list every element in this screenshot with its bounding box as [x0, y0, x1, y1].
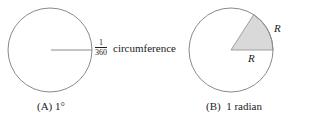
sector-1-radian	[231, 15, 273, 50]
circumference-label: circumference	[113, 42, 176, 54]
radius-label-bottom: R	[248, 52, 255, 64]
fraction-1-360: 1 360	[95, 38, 107, 57]
radius-label-arc: R	[274, 22, 281, 34]
caption-a: (A) 1°	[37, 100, 65, 112]
caption-b: (B) 1 radian	[206, 100, 262, 112]
